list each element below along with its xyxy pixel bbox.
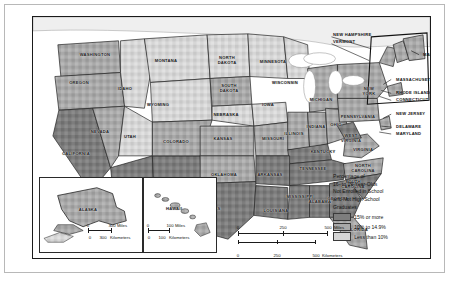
- scale-km-unit: Kilometers: [322, 253, 342, 258]
- state-south-dakota: [210, 77, 252, 107]
- hi-km-tick: 0: [148, 235, 150, 240]
- state-oregon: [55, 73, 125, 111]
- hi-km-unit: Kilometers: [169, 235, 189, 240]
- ak-km-unit: Kilometers: [110, 235, 130, 240]
- state-illinois: [288, 112, 310, 150]
- state-minnesota: [248, 34, 288, 79]
- legend-title-line: Not Enrolled in School: [333, 188, 429, 196]
- legend-swatch-high: [333, 213, 351, 221]
- state-indiana: [308, 112, 328, 148]
- hi-mi-unit: Miles: [175, 223, 185, 228]
- legend-label-low: Less than 10%: [354, 234, 388, 240]
- legend-title: Percentage of 16- to 19-Year-Olds Not En…: [333, 173, 429, 211]
- legend-label-high: 15% or more: [354, 214, 383, 220]
- state-north-dakota: [207, 34, 250, 79]
- hawaii-scale-bar: 0 100 Miles 0 100 Kilometers: [148, 228, 204, 233]
- state-pennsylvania: [337, 98, 379, 122]
- scale-km-tick: 500: [312, 253, 319, 258]
- hi-km-tick: 100: [158, 235, 165, 240]
- page-frame: WASHINGTONOREGONIDAHOMONTANAWYOMINGNORTH…: [4, 4, 445, 273]
- ak-mi-unit: Miles: [117, 223, 127, 228]
- state-arkansas: [256, 156, 290, 186]
- legend-label-mid: 10% to 14.9%: [354, 224, 386, 230]
- state-louisiana: [254, 186, 288, 220]
- state-wyoming: [150, 78, 212, 122]
- alaska-scale-bar: 0 300 Miles 0 300 Kilometers: [88, 228, 140, 233]
- legend-item-mid: 10% to 14.9%: [333, 223, 429, 231]
- state-missouri: [254, 122, 290, 156]
- legend-title-line: and Not High School: [333, 196, 429, 204]
- state-montana: [144, 35, 210, 83]
- legend-item-high: 15% or more: [333, 213, 429, 221]
- scale-mi-tick: 500: [324, 225, 331, 230]
- state-alabama: [310, 186, 330, 218]
- main-scale-bar: 0 250 500 Miles 0 250 500 Kilometers: [238, 231, 353, 244]
- scale-mi-tick: 0: [237, 225, 239, 230]
- ak-km-tick: 300: [99, 235, 106, 240]
- hawaii-inset: HAWAII 0 100 Miles 0 100 Kilometers: [143, 177, 217, 253]
- scale-km-tick: 0: [237, 253, 239, 258]
- legend-title-line: 16- to 19-Year-Olds: [333, 181, 429, 189]
- state-mississippi: [288, 186, 310, 220]
- alaska-shape-svg: [40, 178, 142, 252]
- scale-mi-tick: 250: [279, 225, 286, 230]
- legend-title-line: Percentage of: [333, 173, 429, 181]
- map-panel: WASHINGTONOREGONIDAHOMONTANAWYOMINGNORTH…: [32, 16, 431, 259]
- alaska-inset: ALASKA 0 300 Miles 0 300 Kilometers: [39, 177, 143, 253]
- scale-km-tick: 250: [273, 253, 280, 258]
- scale-mi-unit: Miles: [334, 225, 344, 230]
- hawaii-shape-svg: [144, 178, 216, 252]
- state-kansas: [200, 126, 254, 156]
- state-washington: [58, 41, 121, 77]
- ak-km-tick: 0: [89, 235, 91, 240]
- legend-title-line: Graduates: [333, 204, 429, 212]
